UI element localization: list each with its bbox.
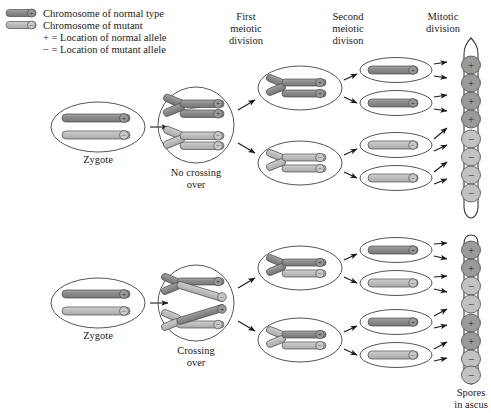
column-header-mitotic-division: Mitotic division [426,11,461,34]
meiosis-diagram: + Chromosome of normal type − Chromosome… [0,0,491,413]
spore-top-3-marker: + [468,95,474,107]
spore-top-2: + [462,74,481,92]
diagram-canvas: + Chromosome of normal type − Chromosome… [0,0,491,413]
col-head-mitotic-line2: division [426,23,461,34]
spore-top-4: + [462,110,481,128]
meiocyte-label-top-line1: No crossing [171,167,222,178]
legend-label-mutant-allele: − = Location of mutant allele [43,44,166,55]
second-div-bottom1-marker: + [411,247,415,255]
zygote-chromosome-mutant-top: − [62,131,130,140]
second-div-top1-marker: + [411,67,415,75]
meiocyte-bottom-marker-2: − [220,294,224,302]
legend-normal-marker: + [30,10,34,18]
spore-top-7-marker: − [468,169,474,181]
meiocyte-bottom-marker-1: + [216,278,220,286]
meiocyte-label-top-line2: over [187,179,206,190]
ascus-top: + + + + − − − [462,38,481,218]
second-div-bottom3-marker: + [411,319,415,327]
spore-bottom-3: − [462,277,481,295]
meiocyte-bottom-marker-4: − [216,321,220,329]
spore-bottom-7: − [462,350,481,368]
first-div-bottom2-marker-1: + [318,331,322,339]
first-div-bottom2-marker-2: − [318,342,322,350]
legend-item-normal: + Chromosome of normal type [6,8,164,19]
spore-top-6: − [462,148,481,166]
spore-bottom-4-marker: − [468,298,474,310]
zygote-bottom-normal-marker: + [122,291,126,299]
spore-top-6-marker: − [468,151,474,163]
spore-bottom-8: − [462,366,481,384]
spore-bottom-2-marker: + [468,262,474,274]
zygote-label-top: Zygote [83,154,113,165]
zygote-chromosome-normal-bottom: + [62,290,130,299]
ascus-label-line1: Spores [457,387,486,398]
first-div-bottom1-marker-2: − [318,270,322,278]
spore-bottom-4: − [462,295,481,313]
col-head-mitotic-line1: Mitotic [428,11,459,22]
zygote-chromosome-normal-top: + [62,114,130,123]
second-div-top3-marker: − [411,142,415,150]
spore-bottom-1-marker: + [468,244,474,256]
zygote-bottom-mutant-marker: − [122,308,126,316]
first-div-top1-marker-2: + [318,90,322,98]
col-head-first-line1: First [236,11,255,22]
col-head-first-line2: meiotic [230,23,262,34]
spore-bottom-8-marker: − [468,369,474,381]
spore-bottom-6-marker: + [468,335,474,347]
meiocyte-bottom-marker-3: + [220,306,224,314]
spore-bottom-5: + [462,314,481,332]
second-div-bottom2-marker: − [411,280,415,288]
legend-label-normal: Chromosome of normal type [43,8,164,19]
col-head-first-line3: division [229,35,264,46]
ascus-label-line2: in ascus [454,399,488,410]
col-head-second-line2: meiotic [332,23,364,34]
first-div-bottom1-marker-1: + [318,259,322,267]
col-head-second-line3: divison [333,35,365,46]
spore-top-2-marker: + [468,77,474,89]
spore-top-8-marker: − [468,187,474,199]
spore-bottom-2: + [462,259,481,277]
first-div-top2-marker-1: − [318,154,322,162]
spore-top-1-marker: + [468,59,474,71]
spore-bottom-3-marker: − [468,280,474,292]
spore-top-5-marker: − [468,133,474,145]
spore-top-5: − [462,130,481,148]
legend-label-normal-allele: + = Location of normal allele [43,32,167,43]
zygote-chromosome-mutant-bottom: − [62,307,130,316]
legend-label-mutant: Chromosome of mutant [43,20,143,31]
spore-bottom-7-marker: − [468,353,474,365]
meiocyte-top-marker-3: − [216,132,220,140]
meiocyte-label-bottom-line1: Crossing [177,345,215,356]
spore-top-3: + [462,92,481,110]
zygote-top-mutant-marker: − [122,132,126,140]
first-div-top1-marker-1: + [318,79,322,87]
second-div-top2-marker: + [411,100,415,108]
spore-bottom-1: + [462,241,481,259]
meiocyte-top-marker-2: + [216,110,220,118]
legend-mutant-marker: − [30,22,34,30]
column-header-second-meiotic-division: Second meiotic divison [332,11,364,46]
zygote-label-bottom: Zygote [83,330,113,341]
spore-bottom-6: + [462,332,481,350]
background [0,0,491,413]
spore-top-1: + [462,56,481,74]
spore-top-4-marker: + [468,113,474,125]
second-div-top4-marker: − [411,175,415,183]
meiocyte-top-marker-4: − [216,142,220,150]
meiocyte-top-marker-1: + [216,100,220,108]
second-div-bottom4-marker: − [411,352,415,360]
spore-top-8: − [462,184,481,202]
col-head-second-line1: Second [333,11,365,22]
spore-top-7: − [462,166,481,184]
first-div-top2-marker-2: − [318,165,322,173]
meiocyte-label-bottom-line2: over [187,357,206,368]
spore-bottom-5-marker: + [468,317,474,329]
zygote-top-normal-marker: + [122,115,126,123]
